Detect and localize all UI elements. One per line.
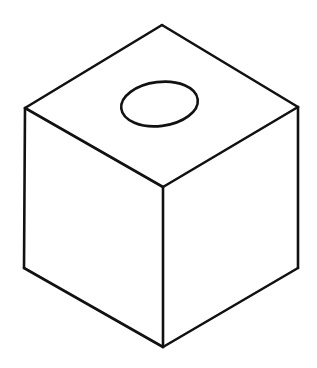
cube-svg: Isometric cube with circular hole in top… [0,0,317,368]
isometric-cube-drawing: Isometric cube with circular hole in top… [0,0,317,368]
edge-vertical-left [24,108,25,268]
